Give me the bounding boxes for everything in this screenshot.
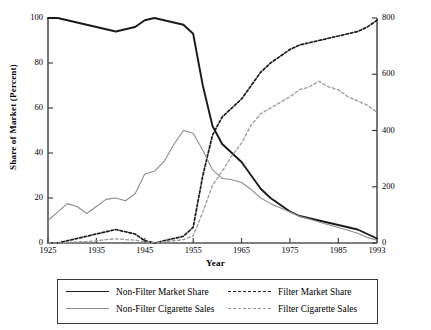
dashed-gray-line-icon [228,304,271,314]
axis-lines [48,18,377,243]
y-tick-label-right: 800 [382,12,395,22]
legend-item: Non-Filter Cigarette Sales [66,304,214,314]
x-tick-label: 1993 [361,245,393,255]
legend-label: Filter Cigarette Sales [278,304,357,314]
x-tick-label: 1935 [80,245,112,255]
legend-label: Non-Filter Cigarette Sales [116,304,214,314]
y-axis-left-title: Share of Market (Percent) [8,57,18,177]
legend: Non-Filter Market Share Filter Market Sh… [57,279,378,324]
y-tick-label-left: 60 [18,102,43,112]
x-tick-label: 1945 [129,245,161,255]
data-series-layer [48,18,377,243]
dashed-black-line-icon [228,287,271,297]
y-tick-label-left: 100 [18,12,43,22]
y-tick-label-right: 400 [382,125,395,135]
y-tick-label-left: 40 [18,147,43,157]
x-axis-title: Year [0,258,431,268]
x-tick-label: 1965 [226,245,258,255]
axis-ticks [48,18,377,243]
y-tick-label-right: 200 [382,181,395,191]
legend-item: Filter Market Share [228,287,351,297]
chart-figure: Share of Market (Percent) Cigarette Sale… [0,0,431,330]
legend-item: Filter Cigarette Sales [228,304,357,314]
y-tick-label-left: 80 [18,57,43,67]
x-tick-label: 1985 [322,245,354,255]
y-tick-label-right: 600 [382,68,395,78]
solid-gray-line-icon [66,304,109,314]
legend-item: Non-Filter Market Share [66,287,209,297]
legend-label: Filter Market Share [278,287,351,297]
x-tick-label: 1975 [274,245,306,255]
x-tick-label: 1925 [32,245,64,255]
series-line [48,20,377,243]
legend-label: Non-Filter Market Share [116,287,209,297]
x-tick-label: 1955 [177,245,209,255]
series-line [48,81,377,243]
solid-black-line-icon [66,287,109,297]
plot-area [0,0,431,275]
y-tick-label-left: 20 [18,192,43,202]
